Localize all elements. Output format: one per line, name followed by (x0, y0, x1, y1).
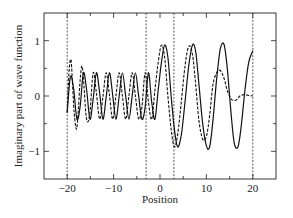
x-tick-label: −10 (105, 182, 123, 194)
plot-frame (44, 13, 276, 179)
curves (67, 43, 253, 149)
y-axis-title: Imaginary part of wave function (12, 24, 24, 167)
wave-function-chart: −20−1001020 −101 Position Imaginary part… (0, 0, 293, 218)
y-tick-labels: −101 (28, 35, 40, 158)
x-tick-label: 10 (201, 182, 213, 194)
x-axis-title: Position (142, 193, 179, 205)
solid-wave-curve (67, 43, 253, 149)
dashed-wave-curve (67, 45, 253, 147)
y-tick-label: −1 (28, 145, 40, 157)
x-tick-label: 20 (247, 182, 259, 194)
y-tick-label: 0 (35, 90, 41, 102)
axis-ticks (44, 13, 276, 179)
x-tick-label: −20 (59, 182, 77, 194)
y-tick-label: 1 (35, 35, 41, 47)
region-boundary-lines (67, 13, 253, 179)
